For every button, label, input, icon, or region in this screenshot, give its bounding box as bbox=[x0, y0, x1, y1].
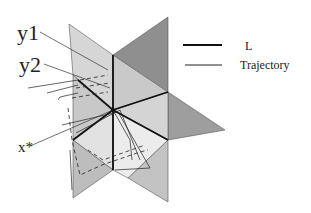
center-point bbox=[111, 108, 115, 112]
legend: L Trajectory bbox=[183, 39, 290, 72]
label-xstar: x* bbox=[18, 139, 33, 155]
label-y2: y2 bbox=[19, 52, 41, 77]
legend-trajectory-label: Trajectory bbox=[240, 58, 290, 72]
plane-right bbox=[168, 92, 225, 140]
legend-L-label: L bbox=[245, 39, 252, 53]
diagram-figure: y1 y2 x* L Trajectory bbox=[0, 0, 311, 213]
label-y1: y1 bbox=[17, 20, 39, 45]
